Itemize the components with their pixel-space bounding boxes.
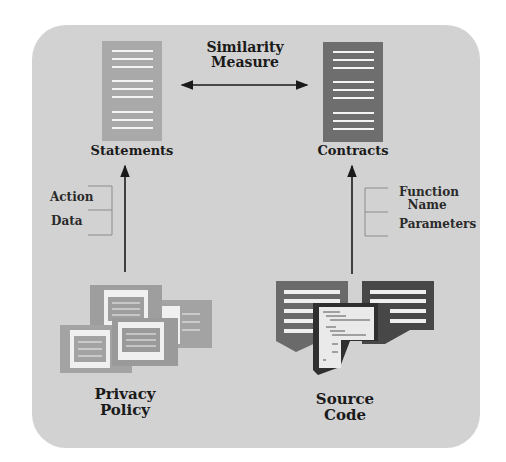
- contracts-label: Contracts: [303, 144, 403, 158]
- similarity-label-line1: Similarity: [206, 39, 283, 55]
- source-code-label: Source Code: [300, 391, 390, 423]
- field-parameters: Parameters: [399, 218, 476, 231]
- field-action: Action: [50, 191, 93, 204]
- source-code-line2: Code: [324, 406, 366, 424]
- field-function-name: Function Name: [399, 186, 455, 212]
- contracts-document-icon: [323, 42, 383, 142]
- statements-label: Statements: [82, 144, 182, 158]
- source-code-icon: [276, 281, 434, 375]
- right-field-bracket: [365, 188, 388, 236]
- privacy-policy-icon: [60, 285, 212, 373]
- similarity-measure-label: Similarity Measure: [200, 40, 290, 70]
- statements-document-icon: [102, 41, 162, 141]
- field-function-name-line2: Name: [407, 198, 446, 212]
- field-function-name-line1: Function: [399, 185, 459, 199]
- privacy-policy-label: Privacy Policy: [80, 386, 170, 418]
- field-data: Data: [51, 215, 83, 228]
- similarity-label-line2: Measure: [211, 54, 279, 70]
- privacy-policy-line2: Policy: [100, 401, 150, 419]
